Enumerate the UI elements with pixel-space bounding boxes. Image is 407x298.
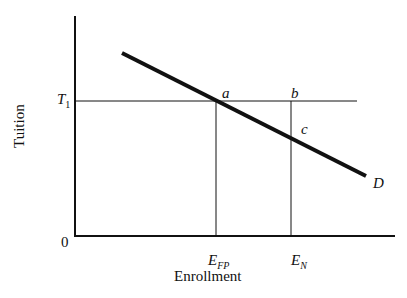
en-subscript: N [300, 260, 307, 271]
efp-letter: E [208, 252, 217, 268]
tuition-level-subscript: 1 [65, 99, 70, 110]
origin-label: 0 [61, 235, 69, 250]
point-a-label: a [222, 86, 230, 101]
diagram-canvas [0, 0, 407, 298]
point-c-label: c [301, 122, 308, 137]
x-axis-label: Enrollment [174, 269, 242, 284]
demand-curve [122, 53, 366, 176]
tuition-level-label: T1 [57, 92, 70, 110]
en-label: EN [291, 253, 307, 271]
demand-curve-label: D [373, 176, 384, 191]
point-b-label: b [291, 86, 299, 101]
en-letter: E [291, 252, 300, 268]
y-axis-label: Tuition [12, 104, 27, 148]
y-axis-label-text: Tuition [11, 104, 27, 148]
